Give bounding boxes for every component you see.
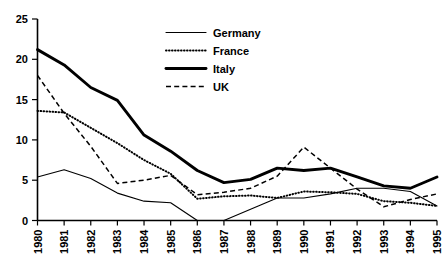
x-tick-label-1990: 1990 (298, 230, 310, 254)
series-line-uk (38, 75, 438, 206)
legend-label-uk: UK (213, 81, 229, 93)
x-tick-label-1995: 1995 (431, 230, 443, 254)
line-chart: 0 5 10 15 20 25 198019811982198319841985… (0, 0, 446, 276)
series-line-italy (38, 50, 438, 189)
y-axis-labels: 0 5 10 15 20 25 (16, 13, 28, 227)
x-axis-labels: 1980198119821983198419851986198719881989… (32, 221, 444, 254)
y-tick-25: 25 (16, 13, 28, 25)
legend-label-germany: Germany (213, 27, 262, 39)
legend-label-france: France (213, 45, 249, 57)
legend-label-italy: Italy (213, 63, 236, 75)
y-tick-20: 20 (16, 53, 28, 65)
y-tick-10: 10 (16, 134, 28, 146)
x-tick-label-1982: 1982 (85, 230, 97, 254)
x-tick-label-1983: 1983 (111, 230, 123, 254)
x-tick-label-1989: 1989 (271, 230, 283, 254)
series-line-france (38, 111, 438, 206)
series-line-germany (38, 170, 438, 221)
chart-container: 0 5 10 15 20 25 198019811982198319841985… (0, 0, 446, 276)
y-tick-5: 5 (22, 174, 28, 186)
x-tick-label-1994: 1994 (404, 229, 416, 254)
x-tick-label-1980: 1980 (32, 230, 44, 254)
x-tick-label-1986: 1986 (191, 230, 203, 254)
x-tick-label-1984: 1984 (138, 229, 150, 254)
y-tick-0: 0 (22, 215, 28, 227)
x-tick-label-1981: 1981 (58, 230, 70, 254)
data-series-group (38, 50, 438, 221)
y-tick-15: 15 (16, 94, 28, 106)
x-tick-label-1993: 1993 (378, 230, 390, 254)
x-tick-label-1987: 1987 (218, 230, 230, 254)
x-tick-label-1992: 1992 (351, 230, 363, 254)
x-tick-label-1988: 1988 (245, 230, 257, 254)
x-tick-label-1985: 1985 (165, 230, 177, 254)
chart-legend: Germany France Italy UK (166, 27, 262, 93)
x-tick-label-1991: 1991 (324, 230, 336, 254)
